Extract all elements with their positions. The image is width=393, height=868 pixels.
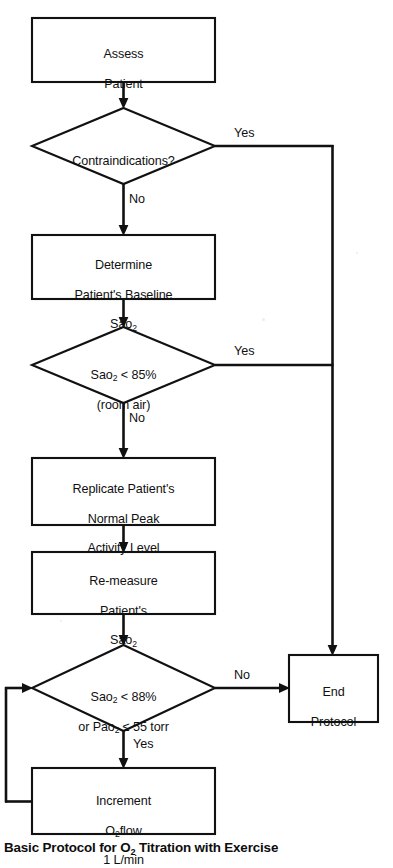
node-sao2-88-decision [32, 645, 215, 731]
node-replicate-activity [32, 458, 215, 525]
node-remeasure-sao2 [32, 552, 215, 614]
edge-label-contraindications-yes: Yes [234, 126, 255, 140]
node-determine-baseline [32, 235, 215, 299]
increment-line-3: 1 L/min [103, 853, 144, 867]
arrowhead-sao2-85-in [119, 317, 129, 328]
node-contraindications [32, 108, 215, 184]
arrowhead-sao2-88-loop-in [22, 683, 33, 693]
node-increment-o2-flow [32, 768, 215, 834]
node-sao2-85-decision [32, 327, 215, 403]
edge-label-sao2-85-no: No [129, 411, 145, 425]
arrowhead-sao2-88-in [119, 635, 129, 646]
node-assess-patient [32, 18, 215, 82]
caption-sub: 2 [130, 847, 135, 857]
edge-label-sao2-85-yes: Yes [234, 344, 255, 358]
caption-post: Titration with Exercise [135, 840, 278, 855]
edge-label-contraindications-no: No [129, 192, 145, 206]
edge-label-sao2-88-yes: Yes [133, 737, 154, 751]
caption-pre: Basic Protocol for O [4, 840, 130, 855]
edge-label-sao2-88-no: No [234, 668, 250, 682]
figure-caption: Basic Protocol for O2 Titration with Exe… [4, 840, 278, 855]
arrowhead-contraindications-in [119, 98, 129, 109]
node-end-protocol [289, 655, 378, 722]
